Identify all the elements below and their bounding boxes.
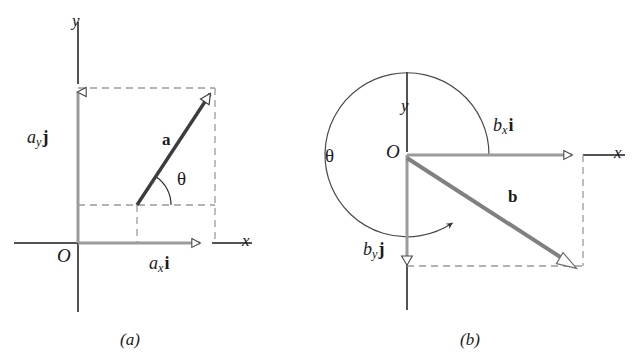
panel-b-caption: (b) (460, 331, 480, 348)
panel-b-vector-label: b (508, 188, 517, 205)
vector-component-figure: y x O a θ ayj axi (a) y x O θ b bxi byj … (0, 0, 635, 360)
panel-a-vector-a (137, 94, 210, 205)
panel-a-y-component-var: a (27, 127, 36, 147)
panel-b-y-axis-label: y (401, 97, 409, 114)
panel-a-vector-label: a (162, 131, 171, 148)
panel-a-y-axis-label: y (72, 12, 80, 29)
panel-a-angle-label: θ (177, 169, 186, 188)
panel-b-x-axis-label: x (614, 144, 622, 161)
panel-b-x-component-sub: x (502, 123, 507, 137)
panel-b-y-component-arrowhead (402, 256, 413, 265)
panel-b-vector-b (407, 158, 568, 262)
panel-b-x-component-unit: i (507, 115, 513, 135)
panel-b-origin-label: O (386, 142, 400, 161)
panel-a-x-component-var: a (149, 253, 158, 273)
panel-a-x-component-label: axi (149, 254, 169, 272)
panel-b-y-component-var: b (363, 239, 372, 259)
panel-b-y-component-sub: y (372, 247, 377, 261)
panel-a-y-component-label: ayj (27, 128, 48, 146)
panel-b-angle-label: θ (325, 146, 334, 165)
panel-b-x-component-label: bxi (493, 116, 513, 134)
panel-a-x-axis-label: x (242, 232, 250, 249)
panel-a-x-component-sub: x (158, 261, 163, 275)
panel-a-caption: (a) (120, 331, 140, 348)
panel-a-y-component-unit: j (41, 127, 48, 147)
panel-b-x-component-var: b (493, 115, 502, 135)
panel-b-y-component-unit: j (377, 239, 384, 259)
panel-a-origin-label: O (57, 246, 71, 265)
panel-a-graphics (0, 0, 635, 360)
panel-b-y-component-label: byj (363, 240, 384, 258)
panel-a-x-component-unit: i (163, 253, 169, 273)
panel-a-y-component-sub: y (36, 135, 41, 149)
panel-a-angle-arc (156, 176, 171, 205)
